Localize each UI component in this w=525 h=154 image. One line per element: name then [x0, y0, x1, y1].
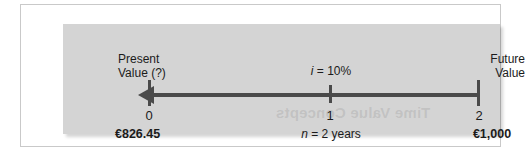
tick-mark-period-0: [148, 80, 151, 106]
future-value-label-line2: Value: [463, 66, 525, 80]
future-value-amount: €1,000: [459, 127, 525, 141]
period-number-1: 1: [310, 109, 350, 123]
present-value-label-line1: Present: [118, 52, 166, 66]
timeline-panel: Time Value Concepts Present Value (?) Fu…: [63, 24, 500, 134]
timeline-arrow-left-icon: [138, 86, 154, 104]
number-of-periods-label: n = 2 years: [271, 127, 391, 141]
periods-value: = 2 years: [311, 127, 361, 141]
period-number-2: 2: [459, 109, 499, 123]
future-value-label-line1: Future: [463, 52, 525, 66]
timeline-axis-line: [151, 93, 480, 97]
interest-rate-value: = 10%: [317, 64, 351, 78]
interest-rate-label: i = 10%: [271, 64, 391, 78]
present-value-label-line2: Value (?): [118, 66, 166, 80]
future-value-label: Future Value: [463, 52, 525, 80]
tick-mark-period-1: [329, 85, 332, 103]
figure-frame: Time Value Concepts Present Value (?) Fu…: [20, 4, 501, 147]
periods-symbol: n: [301, 127, 308, 141]
tick-mark-period-2: [477, 80, 480, 106]
present-value-amount: €826.45: [115, 127, 160, 141]
interest-rate-symbol: i: [311, 64, 314, 78]
period-number-0: 0: [129, 109, 169, 123]
bleed-through-ghost-text: Time Value Concepts: [213, 102, 493, 124]
present-value-label: Present Value (?): [118, 52, 166, 80]
